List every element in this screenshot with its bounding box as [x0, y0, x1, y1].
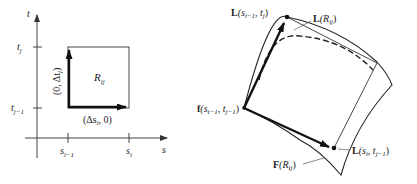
label-L-top: L(si−1, tj) — [231, 7, 268, 20]
parameter-domain-plot: t s tj tj−1 si−1 si Rij (0, Δtj) — [11, 8, 167, 159]
leader-L-bottom — [338, 149, 350, 150]
s-axis-label: s — [162, 144, 166, 155]
tick-label-t-j: tj — [17, 41, 22, 55]
label-L-bottom: L(si, tj−1) — [352, 145, 389, 158]
tick-label-s-i-minus-1: si−1 — [60, 145, 74, 159]
horizontal-vector-label: (Δsi, 0) — [83, 114, 112, 127]
label-f: f(si−1, tj−1) — [197, 103, 239, 116]
label-L-R: L(Rij) — [313, 13, 336, 26]
leader-F-R — [303, 158, 324, 164]
tick-label-t-j-minus-1: tj−1 — [11, 102, 24, 116]
point-L-bottom — [332, 146, 337, 151]
label-F-R: F(Rij) — [273, 159, 296, 172]
surface-patch-plot: L(si−1, tj) L(Rij) f(si−1, tj−1) F(Rij) … — [197, 7, 392, 175]
point-L-top — [285, 15, 290, 20]
vertical-vector-label: (0, Δtj) — [51, 68, 64, 95]
point-f — [242, 106, 246, 110]
diagram-canvas: t s tj tj−1 si−1 si Rij (0, Δtj) — [0, 0, 417, 184]
region-label: Rij — [93, 71, 105, 86]
t-axis-label: t — [27, 8, 30, 19]
tick-label-s-i: si — [126, 145, 132, 159]
tangent-vector-s-arrow — [244, 108, 329, 147]
tangent-vector-t-arrow — [244, 23, 284, 108]
parallelogram-right-edge — [334, 63, 377, 148]
